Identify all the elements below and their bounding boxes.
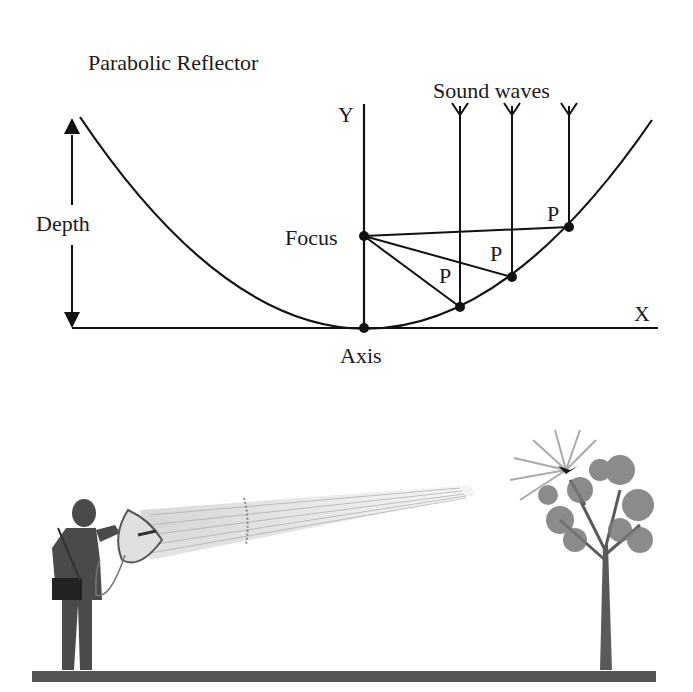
focus-point — [359, 231, 369, 241]
focus-label: Focus — [285, 227, 338, 249]
ground — [32, 671, 656, 682]
x-axis-label: X — [634, 303, 650, 325]
point-label-1: P — [439, 265, 451, 287]
tree — [510, 430, 654, 670]
point-label-2: P — [490, 243, 502, 265]
reflection-point-3 — [564, 222, 574, 232]
depth-label: Depth — [36, 213, 90, 235]
reflection-point-1 — [455, 302, 465, 312]
sound-beam — [140, 485, 475, 560]
y-axis-label: Y — [338, 104, 354, 126]
person-figure — [52, 499, 120, 670]
sound-waves-label: Sound waves — [433, 80, 550, 102]
reflection-lines — [364, 227, 569, 307]
point-label-3: P — [547, 203, 559, 225]
vertex-point — [359, 323, 369, 333]
axis-label: Axis — [340, 345, 382, 367]
diagram-title: Parabolic Reflector — [88, 52, 258, 74]
reflection-point-2 — [507, 272, 517, 282]
